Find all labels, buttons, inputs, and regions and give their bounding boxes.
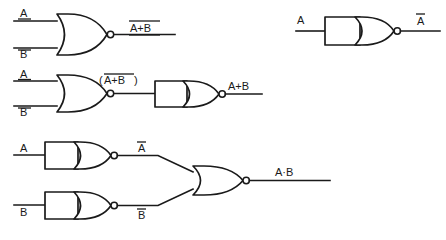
output-not-a-label: A — [417, 15, 425, 27]
label-nor-output-core: A+B — [104, 74, 125, 86]
inverter-gate[interactable] — [183, 81, 219, 107]
logic-gate-diagram: A B A+B A A A B — [0, 0, 446, 240]
inversion-bubble — [107, 90, 113, 96]
inverter-body[interactable] — [325, 17, 360, 45]
input-a-label: A — [20, 7, 28, 19]
diagram-canvas: A B A+B A A A B — [0, 0, 446, 240]
output-and-label: A·B — [275, 166, 293, 178]
nor-gate-final[interactable] — [193, 166, 243, 195]
input-b-label: B — [20, 206, 27, 218]
label-nor-output: ( A+B ) — [99, 74, 138, 86]
inverter-body-a[interactable] — [45, 142, 78, 169]
inverter-gate-a[interactable] — [74, 142, 111, 169]
inversion-bubble-2 — [219, 91, 225, 97]
inverter-body[interactable] — [155, 81, 187, 107]
wire-not-b-to-nor — [117, 189, 193, 206]
label-not-a: A — [138, 142, 146, 154]
nor-gate[interactable] — [57, 14, 107, 55]
output-or-label: A+B — [228, 80, 249, 92]
input-a-label: A — [20, 68, 28, 80]
label-not-b: B — [138, 209, 145, 221]
output-nor-label: A+B — [130, 22, 151, 34]
inverter-gate-b[interactable] — [74, 192, 111, 219]
label-nor-output-prefix: ( — [99, 74, 103, 86]
inversion-bubble-a — [111, 152, 117, 158]
circuit-and: A B A B A·B — [14, 142, 330, 221]
input-a-label: A — [297, 14, 305, 26]
inversion-bubble-b — [111, 202, 117, 208]
inversion-bubble-final — [243, 177, 249, 183]
circuit-or: A B ( A+B ) A+B — [14, 68, 262, 118]
label-nor-output-suffix: ) — [134, 74, 138, 86]
inversion-bubble — [394, 28, 400, 34]
inversion-bubble — [107, 31, 113, 37]
circuit-inverter: A A — [296, 14, 440, 45]
circuit-nor: A B A+B — [14, 7, 175, 60]
inverter-body-b[interactable] — [45, 192, 78, 219]
wire-not-a-to-nor — [117, 156, 193, 173]
input-a-label: A — [20, 142, 28, 154]
